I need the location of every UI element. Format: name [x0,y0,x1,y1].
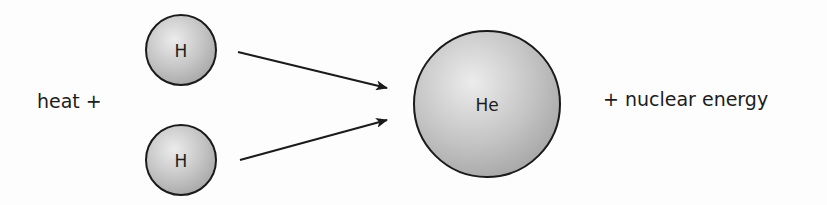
fusion-diagram: heat + H H He + nuclear energy [0,0,827,205]
nuclear-energy-label: + nuclear energy [603,90,768,109]
hydrogen-top-symbol: H [175,43,188,60]
helium-symbol: He [475,97,498,114]
arrow-bottom [240,120,387,160]
heat-label: heat + [37,92,102,111]
hydrogen-bottom-symbol: H [175,153,188,170]
arrow-top [238,52,387,88]
